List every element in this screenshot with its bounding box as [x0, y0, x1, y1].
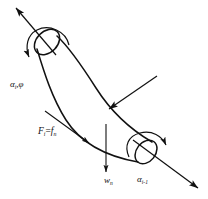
load-arrow	[109, 76, 157, 109]
phi-symbol: φ	[19, 79, 24, 89]
upper-axial-arrow	[16, 8, 56, 55]
tube-body	[37, 36, 152, 162]
tube-diagram-drawing	[0, 0, 208, 199]
label-weight: wn	[104, 176, 113, 186]
alpha-prev-subscript: i-1	[142, 179, 148, 185]
label-alpha-i-minus-1: αi-1	[137, 175, 148, 185]
lower-rotation-arc	[127, 132, 166, 157]
label-alpha-i-phi: αi,φ	[10, 80, 24, 90]
figure-canvas: αi,φ Fi=fn wn αi-1	[0, 0, 208, 199]
weight-subscript: n	[110, 180, 113, 186]
lower-end-ellipse	[131, 136, 162, 168]
tube-end-lower	[131, 136, 162, 168]
label-force-equation: Fi=fn	[38, 127, 56, 138]
force-second-subscript: n	[53, 131, 56, 137]
